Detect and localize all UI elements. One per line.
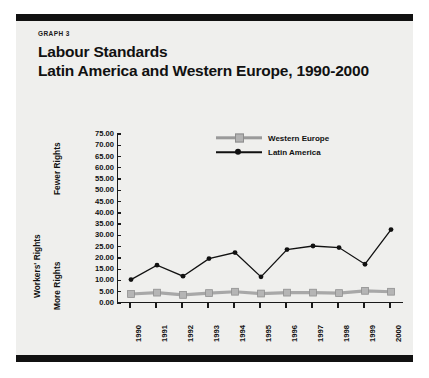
legend-label-western-europe: Western Europe [268, 134, 329, 143]
y-tick-label: 5.00 [99, 288, 114, 296]
y-tick-label: 45.00 [95, 198, 114, 206]
data-point [311, 244, 316, 249]
data-point [154, 289, 161, 296]
data-point [129, 277, 134, 282]
data-point [181, 274, 186, 279]
data-point [389, 227, 394, 232]
x-tick-label: 1992 [186, 325, 195, 342]
chart-legend: Western Europe Latin America [216, 132, 329, 160]
y-axis-tick-labels: 75.0070.0065.0060.0055.0050.0045.0040.00… [68, 128, 114, 310]
title-line-2: Latin America and Western Europe, 1990-2… [38, 61, 388, 80]
data-point [259, 274, 264, 279]
x-tick-label: 1997 [316, 325, 325, 342]
x-tick-label: 1994 [238, 325, 247, 342]
data-point [128, 291, 135, 298]
x-tick-label: 2000 [394, 325, 403, 342]
data-point [206, 290, 213, 297]
y-tick-label: 25.00 [95, 243, 114, 251]
graph-page: GRAPH 3 Labour Standards Latin America a… [0, 0, 429, 378]
data-point [258, 290, 265, 297]
legend-swatch-square-icon [216, 133, 262, 144]
y-tick-label: 40.00 [95, 209, 114, 217]
data-point [363, 262, 368, 267]
y-axis-top-label: Fewer Rights [52, 142, 62, 195]
y-axis-bottom-label: More Rights [52, 262, 62, 310]
y-tick-label: 75.00 [95, 130, 114, 138]
legend-item-western-europe: Western Europe [216, 132, 329, 144]
y-tick-label: 0.00 [99, 299, 114, 307]
legend-swatch-circle-icon [216, 147, 262, 158]
x-tick-mark [155, 303, 156, 308]
x-tick-mark [129, 303, 130, 308]
data-point [155, 263, 160, 268]
graph-number: GRAPH 3 [38, 30, 70, 37]
x-tick-label: 1990 [134, 325, 143, 342]
data-point [336, 290, 343, 297]
y-tick-label: 15.00 [95, 265, 114, 273]
x-tick-label: 1998 [342, 325, 351, 342]
x-tick-mark [181, 303, 182, 308]
data-point [284, 289, 291, 296]
y-tick-label: 65.00 [95, 153, 114, 161]
x-tick-label: 1996 [290, 325, 299, 342]
y-tick-label: 35.00 [95, 220, 114, 228]
top-rule [16, 14, 413, 21]
x-tick-mark [259, 303, 260, 308]
x-tick-mark [285, 303, 286, 308]
data-point [362, 287, 369, 294]
legend-label-latin-america: Latin America [268, 148, 321, 157]
x-tick-mark [389, 303, 390, 308]
data-point [232, 288, 239, 295]
y-tick-label: 20.00 [95, 254, 114, 262]
y-tick-label: 50.00 [95, 186, 114, 194]
x-tick-mark [233, 303, 234, 308]
x-tick-mark [311, 303, 312, 308]
y-tick-label: 70.00 [95, 141, 114, 149]
x-tick-label: 1999 [368, 325, 377, 342]
data-point [233, 250, 238, 255]
x-tick-label: 1995 [264, 325, 273, 342]
y-tick-label: 10.00 [95, 276, 114, 284]
data-point [285, 247, 290, 252]
y-tick-label: 55.00 [95, 175, 114, 183]
title-line-1: Labour Standards [38, 43, 167, 60]
chart-area: Workers' Rights Fewer Rights More Rights… [16, 120, 413, 355]
page-title: Labour Standards Latin America and Weste… [38, 42, 388, 80]
data-point [207, 256, 212, 261]
y-axis-group-label: Workers' Rights [32, 234, 42, 298]
bottom-rule [16, 355, 413, 362]
x-tick-label: 1991 [160, 325, 169, 342]
x-tick-mark [363, 303, 364, 308]
data-point [388, 288, 395, 295]
y-tick-label: 30.00 [95, 231, 114, 239]
series-line-latin-america [131, 230, 391, 280]
y-tick-label: 60.00 [95, 164, 114, 172]
legend-item-latin-america: Latin America [216, 146, 329, 158]
x-tick-label: 1993 [212, 325, 221, 342]
data-point [337, 245, 342, 250]
x-tick-mark [337, 303, 338, 308]
x-tick-mark [207, 303, 208, 308]
data-point [310, 289, 317, 296]
data-point [180, 291, 187, 298]
